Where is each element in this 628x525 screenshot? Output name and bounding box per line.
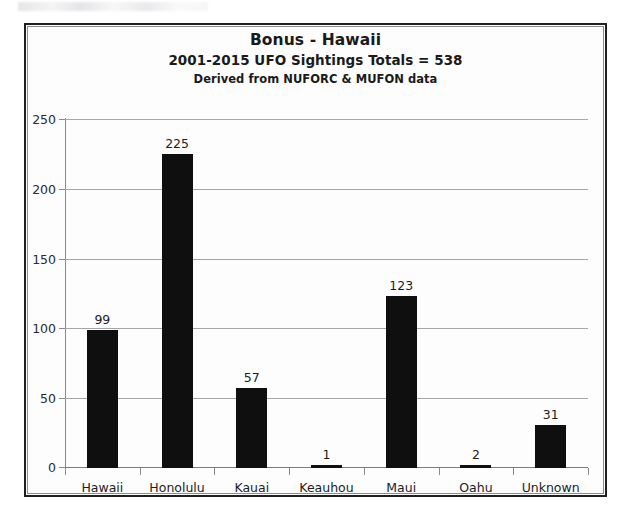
scan-artifact bbox=[18, 2, 208, 11]
chart-title: Bonus - Hawaii bbox=[26, 31, 605, 50]
x-category-label: Oahu bbox=[459, 480, 492, 495]
x-category-label: Honolulu bbox=[149, 480, 204, 495]
y-tick-mark bbox=[59, 398, 65, 399]
bar-value-label: 123 bbox=[389, 278, 413, 293]
bar: 57 bbox=[236, 388, 267, 468]
chart-source-note: Derived from NUFORC & MUFON data bbox=[26, 71, 605, 88]
y-tick-label: 50 bbox=[40, 391, 56, 406]
x-tick-mark bbox=[439, 468, 440, 475]
bar-value-label: 1 bbox=[323, 447, 331, 462]
bar: 1 bbox=[311, 465, 342, 468]
x-tick-mark bbox=[65, 468, 66, 475]
x-tick-mark bbox=[214, 468, 215, 475]
bar-value-label: 99 bbox=[94, 312, 110, 327]
x-tick-mark bbox=[364, 468, 365, 475]
plot-area: 050100150200250 99225571123231 HawaiiHon… bbox=[65, 119, 588, 468]
bar: 225 bbox=[162, 154, 193, 468]
bar: 123 bbox=[386, 296, 417, 468]
x-tick-mark bbox=[588, 468, 589, 475]
bar-value-label: 31 bbox=[543, 407, 559, 422]
gridline bbox=[65, 119, 588, 120]
x-tick-mark bbox=[513, 468, 514, 475]
x-category-label: Hawaii bbox=[81, 480, 123, 495]
y-tick-label: 100 bbox=[32, 321, 56, 336]
bar-value-label: 2 bbox=[472, 447, 480, 462]
gridline bbox=[65, 259, 588, 260]
bar-value-label: 225 bbox=[165, 136, 189, 151]
y-tick-label: 150 bbox=[32, 251, 56, 266]
y-tick-label: 250 bbox=[32, 112, 56, 127]
gridline bbox=[65, 328, 588, 329]
y-tick-mark bbox=[59, 119, 65, 120]
y-tick-label: 200 bbox=[32, 181, 56, 196]
x-tick-mark bbox=[140, 468, 141, 475]
y-tick-mark bbox=[59, 328, 65, 329]
x-category-label: Kauai bbox=[234, 480, 269, 495]
y-tick-mark bbox=[59, 189, 65, 190]
x-category-label: Maui bbox=[386, 480, 416, 495]
bar: 2 bbox=[460, 465, 491, 468]
bar: 31 bbox=[535, 425, 566, 468]
chart-frame: Bonus - Hawaii 2001-2015 UFO Sightings T… bbox=[24, 23, 607, 497]
y-axis-line bbox=[65, 118, 66, 468]
x-category-label: Keauhou bbox=[299, 480, 353, 495]
chart-title-block: Bonus - Hawaii 2001-2015 UFO Sightings T… bbox=[26, 31, 605, 88]
chart-subtitle: 2001-2015 UFO Sightings Totals = 538 bbox=[26, 51, 605, 70]
gridline bbox=[65, 189, 588, 190]
bar: 99 bbox=[87, 330, 118, 468]
y-tick-label: 0 bbox=[48, 460, 56, 475]
bar-value-label: 57 bbox=[244, 370, 260, 385]
x-tick-mark bbox=[289, 468, 290, 475]
x-category-label: Unknown bbox=[522, 480, 580, 495]
y-tick-mark bbox=[59, 259, 65, 260]
gridline bbox=[65, 398, 588, 399]
